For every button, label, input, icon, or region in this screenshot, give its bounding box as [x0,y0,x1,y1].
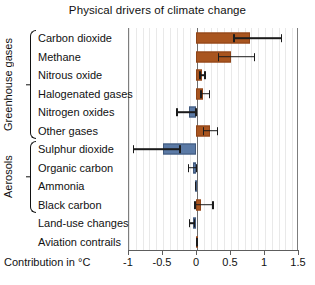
x-tick-label: 1.5 [290,256,305,268]
bar-slot [128,196,298,215]
chart-row: Aviation contrails [0,233,315,252]
bar-slot [128,66,298,85]
category-label: Carbon dioxide [38,32,112,44]
chart-row: Methane [0,48,315,67]
category-label: Methane [38,51,81,63]
error-cap-low [194,201,196,209]
x-axis-title: Contribution in °C [4,256,90,268]
error-cap-high [204,71,206,79]
bar-slot [128,103,298,122]
error-cap-low [218,53,220,61]
category-label: Land-use changes [38,217,129,229]
x-tick-label: 1 [261,256,267,268]
error-cap-high [212,201,214,209]
x-tick [162,250,163,255]
error-cap-high [217,127,219,135]
error-bar [203,130,219,132]
error-bar [200,93,210,95]
error-cap-high [254,53,256,61]
x-tick [230,250,231,255]
error-cap-low [176,108,178,116]
bar-slot [128,85,298,104]
chart-row: Halogenated gases [0,85,315,104]
bar-slot [128,29,298,48]
x-tick-label: -0.5 [153,256,172,268]
error-cap-high [179,145,181,153]
bar-slot [128,48,298,67]
chart-row: Other gases [0,122,315,141]
x-tick [196,250,197,255]
x-tick [298,250,299,255]
chart-row: Organic carbon [0,159,315,178]
chart-row: Sulphur dioxide [0,140,315,159]
chart-row: Ammonia [0,177,315,196]
bracket-nub [26,176,31,177]
category-label: Black carbon [38,199,102,211]
error-bar [194,204,214,206]
group-bracket [26,30,36,139]
error-bar [189,222,196,224]
error-bar [196,241,198,243]
error-cap-high [281,34,283,42]
error-cap-low [189,219,191,227]
error-cap-high [196,164,198,172]
bar-slot [128,177,298,196]
error-cap-low [199,71,201,79]
category-label: Aviation contrails [38,236,121,248]
chart-row: Carbon dioxide [0,29,315,48]
x-tick-label: -1 [123,256,133,268]
error-cap-high [195,182,197,190]
group-label: Aerosols [2,141,14,213]
category-label: Sulphur dioxide [38,143,114,155]
error-bar [218,56,255,58]
error-bar [133,148,181,150]
error-cap-high [195,108,197,116]
error-bar [176,111,196,113]
error-bar [233,37,282,39]
group-label: Greenhouse gases [2,30,14,139]
error-bar [188,167,198,169]
group-bracket [26,141,36,213]
error-cap-low [133,145,135,153]
category-label: Nitrogen oxides [38,106,114,118]
chart-row: Nitrogen oxides [0,103,315,122]
error-bar [199,74,205,76]
category-label: Nitrous oxide [38,69,102,81]
error-cap-low [200,90,202,98]
chart-row: Black carbon [0,196,315,215]
category-label: Other gases [38,125,98,137]
category-label: Organic carbon [38,162,113,174]
category-label: Ammonia [38,180,84,192]
error-cap-high [194,219,196,227]
bracket-nub [26,84,31,85]
chart-row: Nitrous oxide [0,66,315,85]
error-cap-low [233,34,235,42]
error-cap-low [203,127,205,135]
error-cap-high [196,238,198,246]
bar-slot [128,140,298,159]
x-tick [128,250,129,255]
error-cap-high [209,90,211,98]
x-tick-label: 0.5 [222,256,237,268]
bar-slot [128,122,298,141]
x-tick-label: 0 [193,256,199,268]
bar-slot [128,159,298,178]
bar-slot [128,233,298,252]
error-cap-low [188,164,190,172]
bar-slot [128,214,298,233]
chart-row: Land-use changes [0,214,315,233]
error-bar [195,185,197,187]
x-tick [264,250,265,255]
page-title: Physical drivers of climate change [0,4,315,16]
climate-drivers-figure: Physical drivers of climate change Carbo… [0,0,315,285]
category-label: Halogenated gases [38,88,133,100]
